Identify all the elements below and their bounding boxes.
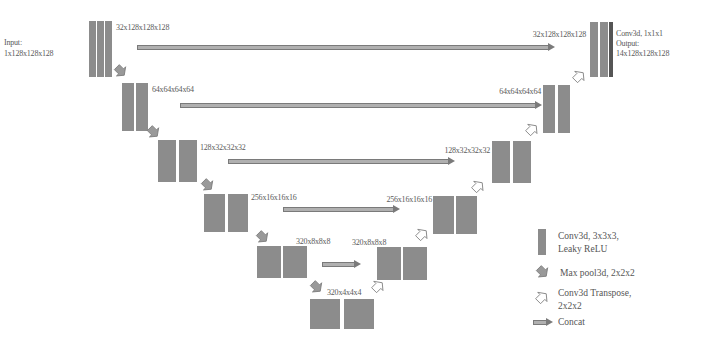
- concat-arrow-level-4: [322, 262, 361, 267]
- conv-transpose-arrow-icon: [471, 180, 485, 194]
- conv-block-icon: [538, 229, 546, 255]
- encoder-label-level-1: 64x64x64x64: [152, 85, 194, 94]
- conv-bar: [433, 196, 454, 234]
- conv-bar: [377, 247, 401, 280]
- output-conv-label: Conv3d, 1x1x1: [616, 29, 663, 38]
- legend-label: Conv3d, 3x3x3,: [558, 230, 619, 242]
- legend-label: Leaky ReLU: [558, 243, 607, 255]
- decoder-label-level-3: 256x16x16x16: [386, 195, 432, 204]
- concat-arrow-level-0: [137, 45, 555, 50]
- legend-label: Concat: [558, 316, 585, 328]
- conv-bar: [136, 83, 148, 131]
- legend-label: Conv3d Transpose,: [558, 287, 631, 299]
- conv-transpose-arrow-icon: [572, 70, 586, 84]
- input-label-shape: 1x128x128x128: [4, 49, 53, 58]
- conv-transpose-arrow-icon: [415, 228, 429, 242]
- encoder-label-level-0: 32x128x128x128: [116, 23, 169, 32]
- conv-bar: [122, 83, 134, 131]
- conv-bar: [158, 140, 176, 182]
- max-pool-arrow-icon: [309, 280, 323, 294]
- output-label-title: Output:: [616, 39, 639, 48]
- input-channel-bar: [89, 21, 96, 77]
- conv-bar: [228, 194, 248, 232]
- conv-bar: [590, 22, 598, 77]
- concat-arrow-icon: [533, 320, 553, 325]
- encoder-label-level-2: 128x32x32x32: [200, 143, 246, 152]
- conv-bar: [543, 85, 555, 133]
- encoder-label-level-4: 320x8x8x8: [296, 237, 330, 246]
- decoder-label-level-1: 64x64x64x64: [499, 87, 541, 96]
- conv-transpose-arrow-icon: [371, 280, 385, 294]
- decoder-label-level-0: 32x128x128x128: [533, 30, 586, 39]
- conv-bar: [310, 299, 340, 329]
- max-pool-arrow-icon: [113, 64, 127, 78]
- conv-bar: [600, 22, 608, 77]
- concat-arrow-level-3: [283, 207, 400, 212]
- max-pool-arrow-icon: [255, 230, 269, 244]
- conv-bar: [403, 247, 427, 280]
- concat-arrow-level-1: [180, 103, 542, 108]
- conv-bar: [97, 21, 104, 77]
- bottleneck-label: 320x4x4x4: [327, 288, 361, 297]
- conv-bar: [344, 299, 374, 329]
- conv-bar: [179, 140, 197, 182]
- conv-bar: [257, 246, 281, 278]
- conv-bar: [558, 85, 570, 133]
- legend-label: Max pool3d, 2x2x2: [560, 267, 635, 279]
- output-conv-bar: [609, 22, 613, 77]
- legend-label: 2x2x2: [558, 300, 582, 312]
- decoder-label-level-2: 128x32x32x32: [444, 146, 490, 155]
- conv-bar: [513, 141, 531, 183]
- conv-transpose-arrow-icon: [535, 291, 549, 305]
- concat-arrow-level-2: [228, 159, 455, 164]
- conv-bar: [492, 141, 510, 183]
- conv-transpose-arrow-icon: [525, 123, 539, 137]
- decoder-label-level-4: 320x8x8x8: [352, 238, 386, 247]
- conv-bar: [283, 246, 307, 278]
- max-pool-arrow-icon: [146, 125, 160, 139]
- conv-bar: [456, 196, 477, 234]
- conv-bar: [105, 21, 112, 77]
- max-pool-arrow-icon: [200, 178, 214, 192]
- max-pool-arrow-icon: [535, 265, 549, 279]
- conv-bar: [204, 194, 225, 232]
- input-label-title: Input:: [4, 38, 22, 47]
- encoder-label-level-3: 256x16x16x16: [251, 193, 297, 202]
- output-label-shape: 14x128x128x128: [616, 49, 669, 58]
